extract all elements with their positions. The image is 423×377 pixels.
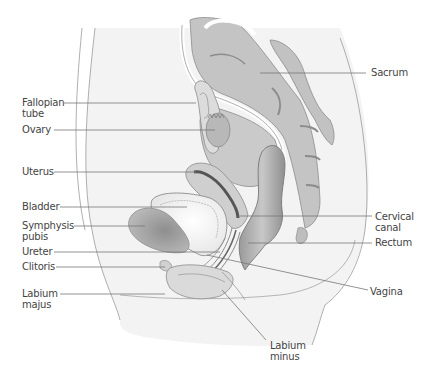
label-ureter: Ureter <box>22 246 52 257</box>
label-bladder: Bladder <box>22 201 59 212</box>
label-clitoris: Clitoris <box>22 261 55 272</box>
label-uterus: Uterus <box>22 166 54 177</box>
label-cervical-canal: Cervical canal <box>375 211 414 233</box>
label-symphysis-pubis: Symphysis pubis <box>22 220 74 242</box>
label-ovary: Ovary <box>22 124 51 135</box>
label-rectum: Rectum <box>375 237 412 248</box>
label-fallopian-tube: Fallopian tube <box>22 97 64 119</box>
pelvis-diagram <box>0 0 423 377</box>
label-labium-majus: Labium majus <box>22 288 58 310</box>
label-labium-minus: Labium minus <box>270 340 306 362</box>
label-vagina: Vagina <box>370 286 403 297</box>
label-sacrum: Sacrum <box>371 67 408 78</box>
